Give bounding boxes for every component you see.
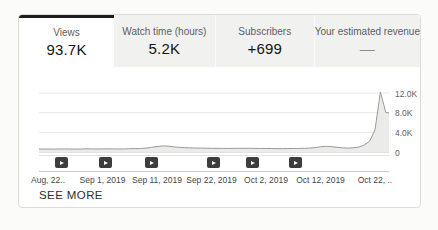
analytics-summary-card: Views 93.7K Watch time (hours) 5.2K Subs… [18, 14, 421, 208]
play-triangle-icon [104, 161, 108, 165]
play-triangle-icon [251, 161, 255, 165]
tab-views-value: 93.7K [46, 41, 86, 58]
y-axis-tick-label: 0 [395, 148, 400, 158]
x-axis-tick-label: Sep 22, 2019 [186, 175, 237, 185]
views-series-line [39, 92, 389, 149]
tab-views-label: Views [53, 27, 80, 38]
tab-estimated-revenue[interactable]: Your estimated revenue — [314, 15, 420, 67]
timeline-axis-line [39, 171, 389, 172]
x-axis-tick-label: Sep 1, 2019 [80, 175, 126, 185]
play-triangle-icon [294, 161, 298, 165]
x-axis-tick-label: Oct 2, 2019 [244, 175, 288, 185]
x-axis-tick-label: Aug, 22.. [31, 175, 65, 185]
x-axis-tick-label: Oct 12, 2019 [296, 175, 345, 185]
metric-tabs-row: Views 93.7K Watch time (hours) 5.2K Subs… [19, 15, 420, 67]
y-axis-tick-label: 8.0K [395, 108, 413, 118]
video-marker-play-icon[interactable] [246, 157, 259, 168]
see-more-link[interactable]: SEE MORE [39, 189, 103, 201]
x-axis-tick-label: Sep 11, 2019 [132, 175, 182, 185]
tab-watch-time-value: 5.2K [149, 40, 181, 57]
tab-estimated-revenue-value: — [360, 40, 375, 57]
video-marker-play-icon[interactable] [145, 157, 158, 168]
play-triangle-icon [212, 161, 216, 165]
video-marker-play-icon[interactable] [207, 157, 220, 168]
tab-subscribers-value: +699 [247, 40, 282, 57]
tab-subscribers-label: Subscribers [238, 26, 291, 37]
tab-watch-time-label: Watch time (hours) [122, 26, 206, 37]
views-area-chart [39, 89, 389, 156]
tab-watch-time[interactable]: Watch time (hours) 5.2K [114, 15, 215, 67]
y-axis-tick-label: 4.0K [395, 128, 413, 138]
play-triangle-icon [60, 161, 64, 165]
tab-estimated-revenue-label: Your estimated revenue [315, 26, 420, 37]
video-marker-play-icon[interactable] [99, 157, 112, 168]
tab-subscribers[interactable]: Subscribers +699 [215, 15, 314, 67]
views-series-area [39, 92, 389, 152]
page-background: { "summary_tabs": [ { "label": "Views", … [0, 0, 438, 230]
chart-sub-axis-line [39, 155, 389, 156]
y-axis-tick-label: 12.0K [395, 89, 417, 99]
video-marker-play-icon[interactable] [55, 157, 68, 168]
tab-views[interactable]: Views 93.7K [19, 15, 114, 67]
x-axis-tick-label: Oct 22, .. [358, 175, 393, 185]
play-triangle-icon [150, 161, 154, 165]
video-marker-play-icon[interactable] [289, 157, 302, 168]
